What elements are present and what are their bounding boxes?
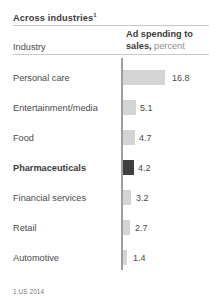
table-row: Personal care16.8 bbox=[0, 72, 222, 102]
table-row: Financial services3.2 bbox=[0, 192, 222, 222]
table-row: Pharmaceuticals4.2 bbox=[0, 162, 222, 192]
exhibit-container: Across industries1 Industry Ad spending … bbox=[0, 0, 222, 307]
row-bar bbox=[123, 250, 127, 265]
row-bar bbox=[123, 160, 134, 175]
chart-rows: Personal care16.8Entertainment/media5.1F… bbox=[0, 0, 222, 307]
row-value-label: 4.7 bbox=[139, 132, 152, 144]
row-label-industry: Pharmaceuticals bbox=[13, 162, 86, 174]
row-value-label: 1.4 bbox=[133, 252, 146, 264]
row-value-label: 4.2 bbox=[138, 162, 151, 174]
row-label-industry: Retail bbox=[13, 222, 37, 234]
row-bar bbox=[123, 220, 130, 235]
table-row: Entertainment/media5.1 bbox=[0, 102, 222, 132]
row-bar bbox=[123, 190, 131, 205]
footnote: 1 US 2014 bbox=[13, 288, 44, 295]
row-value-label: 16.8 bbox=[172, 72, 190, 84]
row-label-industry: Automotive bbox=[13, 252, 59, 264]
table-row: Food4.7 bbox=[0, 132, 222, 162]
row-bar bbox=[123, 100, 136, 115]
table-row: Retail2.7 bbox=[0, 222, 222, 252]
row-value-label: 2.7 bbox=[135, 222, 148, 234]
row-value-label: 5.1 bbox=[140, 102, 153, 114]
row-bar bbox=[123, 130, 135, 145]
row-bar bbox=[123, 70, 165, 85]
row-label-industry: Personal care bbox=[13, 72, 70, 84]
table-row: Automotive1.4 bbox=[0, 252, 222, 282]
row-label-industry: Food bbox=[13, 132, 34, 144]
row-label-industry: Entertainment/media bbox=[13, 102, 98, 114]
row-value-label: 3.2 bbox=[136, 192, 149, 204]
row-label-industry: Financial services bbox=[13, 192, 86, 204]
